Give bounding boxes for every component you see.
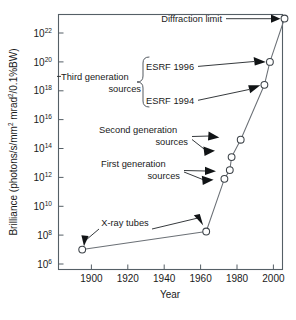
y-tick-base: 10 xyxy=(37,230,49,241)
x-tick-label: 1980 xyxy=(226,273,249,284)
data-point-second-gen-1981 xyxy=(237,136,244,143)
y-tick-base: 10 xyxy=(34,201,46,212)
leader-line xyxy=(192,136,210,137)
y-tick-exponent: 8 xyxy=(48,229,52,236)
y-tick-label: 1012 xyxy=(34,171,53,183)
figure-container: 106 108 1010 1012 1014 1016 1018 1020 xyxy=(0,0,296,320)
leader-line xyxy=(86,229,99,240)
y-axis-ticks xyxy=(59,33,64,264)
arrowhead-icon xyxy=(203,147,215,156)
annotation-esrf-1994: ESRF 1994 xyxy=(146,85,260,106)
arrowhead-icon xyxy=(271,15,281,23)
annotation-xray-tubes-label: X-ray tubes xyxy=(101,218,149,228)
y-axis-tick-labels: 106 108 1010 1012 1014 1016 1018 1020 xyxy=(34,27,53,270)
y-tick-base: 10 xyxy=(34,57,46,68)
annotation-second-generation: Second generation sources xyxy=(99,125,219,156)
annotation-second-generation-line2: sources xyxy=(155,137,188,147)
arrowhead-icon xyxy=(205,167,216,175)
y-tick-base: 10 xyxy=(34,28,46,39)
annotation-third-generation: Third generation sources xyxy=(57,57,149,107)
arrowhead-icon xyxy=(254,57,266,65)
y-tick-exponent: 10 xyxy=(45,200,53,207)
annotation-esrf-1994-label: ESRF 1994 xyxy=(146,96,194,106)
y-tick-exponent: 18 xyxy=(45,84,53,91)
leader-line xyxy=(184,171,206,172)
y-tick-exponent: 14 xyxy=(45,142,53,149)
x-axis-tick-labels: 1900 1920 1940 1960 1980 2000 xyxy=(80,273,285,284)
y-tick-exponent: 16 xyxy=(45,113,53,120)
data-point-esrf-1996 xyxy=(267,59,274,66)
arrowhead-icon xyxy=(208,132,219,141)
leader-line xyxy=(152,218,198,229)
y-tick-base: 10 xyxy=(34,143,46,154)
y-tick-base: 10 xyxy=(34,114,46,125)
y-axis-title-mid: mrad xyxy=(8,97,19,123)
annotation-diffraction-limit-label: Diffraction limit xyxy=(161,14,222,24)
arrowhead-icon xyxy=(81,235,88,246)
y-axis-title-tail: /0.1%BW) xyxy=(8,48,19,93)
x-tick-label: 1920 xyxy=(117,273,140,284)
y-tick-base: 10 xyxy=(34,172,46,183)
y-tick-label: 108 xyxy=(37,229,52,241)
annotation-first-generation: First generation sources xyxy=(101,159,216,185)
x-axis-title: Year xyxy=(160,289,181,300)
leader-line xyxy=(184,172,204,180)
y-tick-base: 10 xyxy=(37,259,49,270)
annotation-third-generation-line1: Third generation xyxy=(61,72,129,82)
annotation-esrf-1996-label: ESRF 1996 xyxy=(146,62,194,72)
y-tick-base: 10 xyxy=(34,85,46,96)
arrowhead-icon xyxy=(248,85,260,93)
y-tick-exponent: 12 xyxy=(45,171,53,178)
y-tick-exponent: 20 xyxy=(45,56,53,63)
brilliance-vs-year-chart: 106 108 1010 1012 1014 1016 1018 1020 xyxy=(0,0,296,320)
data-point-xray-tube-1962 xyxy=(203,228,210,235)
y-tick-label: 106 xyxy=(37,258,52,270)
data-point-first-gen-1972 xyxy=(221,175,228,182)
annotation-third-generation-line2: sources xyxy=(108,84,141,94)
x-axis-ticks xyxy=(91,265,273,270)
y-tick-label: 1014 xyxy=(34,142,53,154)
arrowhead-icon xyxy=(202,176,214,185)
leader-line xyxy=(198,90,249,101)
data-point-first-gen-1975 xyxy=(226,167,233,174)
x-tick-label: 1900 xyxy=(80,273,103,284)
y-tick-label: 1018 xyxy=(34,84,53,96)
y-tick-exponent: 22 xyxy=(45,27,53,34)
x-tick-label: 2000 xyxy=(262,273,285,284)
annotation-second-generation-line1: Second generation xyxy=(99,125,177,135)
y-tick-exponent: 6 xyxy=(48,258,52,265)
annotation-first-generation-line2: sources xyxy=(147,171,180,181)
leader-line xyxy=(198,62,254,67)
annotation-esrf-1996: ESRF 1996 xyxy=(146,57,266,72)
data-point-diffraction-limit xyxy=(281,15,288,22)
y-axis-title-lead: Brilliance (photons/s/mm xyxy=(8,126,19,235)
arrowhead-icon xyxy=(194,214,203,226)
x-tick-label: 1940 xyxy=(153,273,176,284)
annotation-first-generation-line1: First generation xyxy=(101,159,166,169)
annotation-diffraction-limit: Diffraction limit xyxy=(161,14,280,24)
x-tick-label: 1960 xyxy=(189,273,212,284)
y-axis-title: Brilliance (photons/s/mm2 mrad2/0.1%BW) xyxy=(7,48,19,235)
y-tick-label: 1016 xyxy=(34,113,53,125)
data-point-xray-tube-1895 xyxy=(79,246,86,253)
y-tick-label: 1010 xyxy=(34,200,53,212)
annotation-xray-tubes: X-ray tubes xyxy=(81,214,203,246)
data-point-esrf-1994 xyxy=(261,81,268,88)
data-point-second-gen-1976 xyxy=(228,154,235,161)
y-tick-label: 1022 xyxy=(34,27,53,39)
y-tick-label: 1020 xyxy=(34,56,53,68)
